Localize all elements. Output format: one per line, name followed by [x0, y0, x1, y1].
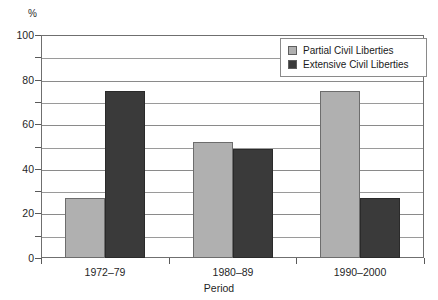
y-axis-label: 60: [0, 119, 34, 130]
bar-extensive-1: [233, 149, 273, 258]
y-axis-label: 100: [0, 30, 34, 41]
legend-label-extensive: Extensive Civil Liberties: [303, 59, 409, 70]
legend-swatch-partial-icon: [288, 46, 297, 55]
bar-partial-0: [65, 198, 105, 258]
x-axis-tick: [424, 258, 425, 264]
chart-legend: Partial Civil Liberties Extensive Civil …: [280, 38, 427, 77]
x-axis-label-1: 1980–89: [173, 266, 293, 278]
bar-chart: % 100806040200 1972–791980–891990–2000 P…: [0, 0, 438, 300]
legend-label-partial: Partial Civil Liberties: [303, 45, 394, 56]
y-axis-label: 20: [0, 208, 34, 219]
y-axis-label: 40: [0, 164, 34, 175]
x-axis-tick: [169, 258, 170, 264]
y-axis-label: 80: [0, 75, 34, 86]
bar-partial-1: [193, 142, 233, 258]
y-axis-label: 0: [0, 253, 34, 264]
legend-swatch-extensive-icon: [288, 60, 297, 69]
x-axis-label-2: 1990–2000: [300, 266, 420, 278]
legend-item-extensive: Extensive Civil Liberties: [288, 58, 420, 71]
x-axis-tick: [41, 258, 42, 264]
bar-partial-2: [320, 91, 360, 258]
bar-extensive-2: [360, 198, 400, 258]
x-axis-tick: [296, 258, 297, 264]
x-axis-label-0: 1972–79: [45, 266, 165, 278]
legend-item-partial: Partial Civil Liberties: [288, 44, 420, 57]
x-axis-title: Period: [0, 282, 438, 294]
bar-extensive-0: [105, 91, 145, 258]
y-axis-unit-label: %: [28, 8, 37, 19]
